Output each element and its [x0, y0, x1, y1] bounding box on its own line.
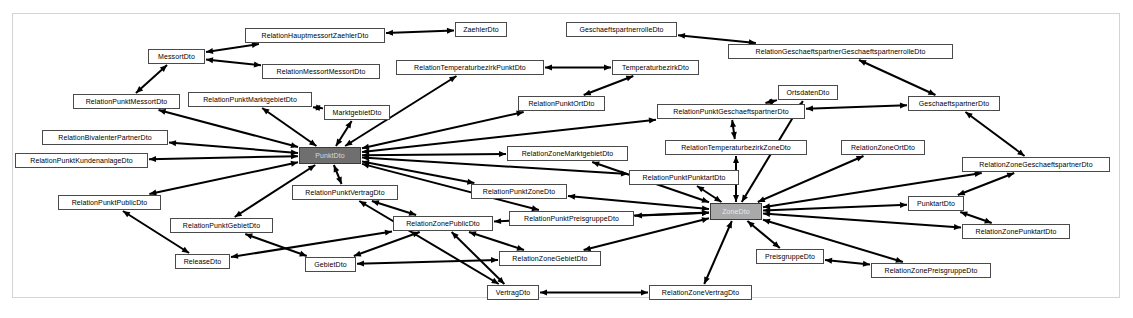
class-node-label: RelationPunktPunktartDto [643, 174, 726, 181]
class-node-RelationPunktPunktartDto[interactable]: RelationPunktPunktartDto [629, 170, 739, 185]
class-node-GeschaeftspartnerrolleDto[interactable]: GeschaeftspartnerrolleDto [566, 22, 677, 37]
edge-arrowhead [494, 218, 501, 224]
edge-RelationZoneGebietDto-to-GebietDto [357, 257, 498, 266]
diagram-canvas: MessortDtoRelationHauptmessortZaehlerDto… [0, 0, 1133, 318]
class-node-ZaehlerDto[interactable]: ZaehlerDto [455, 22, 507, 37]
edge-arrowhead [958, 190, 966, 196]
edge-ZaehlerDto-to-RelationHauptmessortZaehlerDto [386, 28, 454, 36]
edge-ZoneDto-to-RelationZonePunktartDto [763, 211, 961, 230]
edge-line [169, 143, 298, 153]
edge-PunktDto-to-RelationPunktMessortDto [159, 109, 298, 148]
edge-line [763, 213, 961, 227]
edge-RelationZoneGeschaeftspartnerDto-to-GeschaeftspartnerDto [965, 112, 1024, 156]
class-node-ZoneDto[interactable]: ZoneDto [710, 203, 762, 220]
class-node-PunktartDto[interactable]: PunktartDto [908, 196, 964, 211]
edge-RelationPunktMessortDto-to-MessortDto [136, 65, 167, 93]
class-node-RelationTemperaturbezirkZoneDto[interactable]: RelationTemperaturbezirkZoneDto [665, 140, 807, 155]
class-node-label: RelationPunktVertragDto [305, 189, 384, 196]
edge-arrowhead [900, 202, 907, 208]
class-node-RelationGeschaeftspartnerGeschaeftspartnerrolleDto[interactable]: RelationGeschaeftspartnerGeschaeftspartn… [728, 44, 953, 59]
edge-arrowhead [641, 290, 648, 296]
edge-arrowhead [354, 251, 362, 257]
edge-RelationZonePublicDto-to-VertragDto [452, 232, 505, 284]
class-node-RelationZonePunktartDto[interactable]: RelationZonePunktartDto [962, 224, 1070, 239]
edge-line [678, 35, 756, 43]
class-node-label: RelationPunktKundenanlageDto [30, 157, 132, 164]
edge-RelationGeschaeftspartnerGeschaeftspartnerrolleDto-to-GeschaeftspartnerDto [859, 60, 935, 95]
edge-RelationZonePublicDto-to-RelationZoneGebietDto [469, 231, 524, 250]
class-node-RelationZoneGebietDto[interactable]: RelationZoneGebietDto [499, 251, 601, 266]
class-node-label: RelationPunktGeschaeftspartnerDto [673, 108, 788, 115]
edge-line [386, 30, 454, 32]
class-node-label: ReleaseDto [184, 258, 222, 265]
class-node-label: RelationPunktGebietDto [183, 222, 260, 229]
class-node-RelationZoneMarktgebietDto[interactable]: RelationZoneMarktgebietDto [507, 146, 628, 161]
class-node-RelationPunktMessortDto[interactable]: RelationPunktMessortDto [73, 94, 180, 109]
class-node-MarktgebietDto[interactable]: MarktgebietDto [324, 105, 390, 120]
class-node-label: RelationPunktMarktgebietDto [203, 96, 297, 103]
edge-arrowhead [516, 245, 524, 251]
class-node-label: GebietDto [314, 261, 346, 268]
class-node-label: RelationHauptmessortZaehlerDto [262, 32, 369, 39]
class-node-label: RelationZonePublicDto [406, 220, 480, 227]
class-node-RelationZoneGeschaeftspartnerDto[interactable]: RelationZoneGeschaeftspartnerDto [962, 157, 1110, 172]
class-node-TemperaturbezirkDto[interactable]: TemperaturbezirkDto [612, 60, 699, 75]
edge-PunktDto-to-RelationPunktKundenanlageDto [149, 153, 298, 162]
edge-line [159, 110, 298, 147]
edge-line [231, 232, 392, 257]
edge-arrowhead [895, 257, 903, 263]
edge-RelationHauptmessortZaehlerDto-to-MessortDto [206, 42, 259, 54]
edge-line [362, 154, 506, 155]
class-node-MessortDto[interactable]: MessortDto [148, 49, 205, 64]
class-node-RelationPunktPublicDto[interactable]: RelationPunktPublicDto [58, 195, 161, 210]
class-node-RelationZoneOrtDto[interactable]: RelationZoneOrtDto [841, 140, 925, 155]
edge-arrowhead [626, 76, 634, 82]
class-node-PunktDto[interactable]: PunktDto [299, 147, 361, 164]
class-node-label: RelationTemperaturbezirkZoneDto [681, 144, 791, 151]
edge-arrowhead [763, 219, 771, 225]
edge-line [149, 156, 298, 159]
edge-ZoneDto-to-RelationZoneOrtDto [758, 156, 864, 202]
class-node-label: RelationZonePunktartDto [976, 228, 1057, 235]
class-node-OrtsdatenDto[interactable]: OrtsdatenDto [778, 85, 838, 100]
class-node-label: GeschaeftspartnerDto [919, 100, 989, 107]
class-node-RelationZonePublicDto[interactable]: RelationZonePublicDto [393, 216, 493, 231]
edge-arrowhead [702, 210, 709, 216]
class-node-RelationPunktPreisgruppeDto[interactable]: RelationPunktPreisgruppeDto [509, 211, 634, 226]
class-node-label: MessortDto [158, 53, 195, 60]
class-node-GebietDto[interactable]: GebietDto [305, 257, 356, 272]
class-node-label: TemperaturbezirkDto [622, 64, 689, 71]
class-node-RelationPunktMarktgebietDto[interactable]: RelationPunktMarktgebietDto [188, 92, 312, 107]
edge-arrowhead [733, 195, 739, 202]
class-node-VertragDto[interactable]: VertragDto [487, 285, 539, 300]
class-node-RelationBivalenterPartnerDto[interactable]: RelationBivalenterPartnerDto [42, 130, 168, 145]
class-node-RelationPunktOrtDto[interactable]: RelationPunktOrtDto [518, 96, 605, 111]
class-node-ReleaseDto[interactable]: ReleaseDto [175, 254, 230, 269]
class-node-RelationPunktGeschaeftspartnerDto[interactable]: RelationPunktGeschaeftspartnerDto [657, 104, 805, 119]
edge-arrowhead [806, 106, 813, 112]
edge-arrowhead [960, 211, 968, 217]
edge-arrowhead [540, 290, 547, 296]
class-node-RelationPunktGebietDto[interactable]: RelationPunktGebietDto [170, 218, 273, 233]
edge-arrowhead [169, 140, 176, 146]
class-node-RelationPunktVertragDto[interactable]: RelationPunktVertragDto [292, 185, 398, 200]
class-node-RelationPunktZoneDto[interactable]: RelationPunktZoneDto [471, 184, 567, 199]
edge-arrowhead [592, 161, 600, 167]
edge-arrowhead [299, 251, 307, 257]
edge-RelationPunktGeschaeftspartnerDto-to-GeschaeftspartnerDto [806, 102, 907, 111]
edge-RelationMessortMessortDto-to-MessortDto [206, 57, 261, 67]
class-node-RelationTemperaturbezirkPunktDto[interactable]: RelationTemperaturbezirkPunktDto [396, 60, 544, 75]
edge-line [357, 260, 498, 264]
class-node-RelationZoneVertragDto[interactable]: RelationZoneVertragDto [649, 285, 752, 300]
class-node-RelationMessortMessortDto[interactable]: RelationMessortMessortDto [262, 64, 380, 79]
edge-arrowhead [733, 156, 739, 163]
edge-arrowhead [701, 197, 709, 203]
edge-arrowhead [1007, 173, 1015, 179]
class-node-RelationPunktKundenanlageDto[interactable]: RelationPunktKundenanlageDto [15, 153, 148, 168]
class-node-RelationZonePreisgruppeDto[interactable]: RelationZonePreisgruppeDto [871, 263, 991, 278]
class-node-PreisgruppeDto[interactable]: PreisgruppeDto [756, 249, 824, 264]
class-node-GeschaeftspartnerDto[interactable]: GeschaeftspartnerDto [908, 96, 1000, 111]
edge-RelationZonePunktartDto-to-PunktartDto [960, 211, 991, 223]
class-node-label: ZoneDto [722, 208, 750, 215]
class-node-RelationHauptmessortZaehlerDto[interactable]: RelationHauptmessortZaehlerDto [245, 28, 385, 43]
